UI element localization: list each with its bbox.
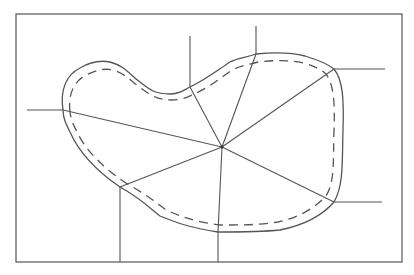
center-point (220, 145, 223, 148)
ray-bottom-left (120, 147, 222, 187)
ray-right-top (222, 69, 334, 147)
ray-bottom (218, 147, 222, 232)
partition-diagram (0, 0, 414, 275)
frame-border (16, 14, 402, 262)
external-connectors (27, 26, 385, 262)
ray-left (63, 110, 222, 147)
ray-right-bottom (222, 147, 334, 202)
ray-top (222, 54, 256, 147)
ray-top-left (190, 87, 222, 147)
rays (63, 54, 334, 232)
